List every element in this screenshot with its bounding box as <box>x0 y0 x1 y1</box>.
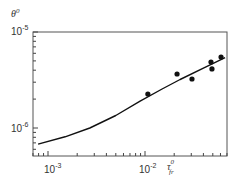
data-points <box>145 54 223 96</box>
x-axis-title-sup: 0 <box>171 158 175 166</box>
data-point <box>189 76 194 81</box>
data-point <box>209 66 214 71</box>
y-axis-title: θ0 <box>11 8 19 19</box>
x-tick-label-1e-2: 10-2 <box>139 163 156 175</box>
data-point <box>208 59 213 64</box>
y-tick-label-1e-6: 10-6 <box>11 122 28 134</box>
x-tick-exp: -2 <box>150 162 156 169</box>
x-axis-title: τ0fr <box>167 161 179 175</box>
y-tick-base: 10 <box>11 26 22 37</box>
y-axis-title-sup: 0 <box>16 7 20 15</box>
x-tick-base: 10 <box>44 164 55 175</box>
x-tick-label-1e-3: 10-3 <box>44 163 61 175</box>
y-tick-base: 10 <box>11 123 22 134</box>
y-tick-label-1e-5: 10-5 <box>11 25 28 37</box>
model-curve-line <box>38 58 225 144</box>
data-point <box>218 54 223 59</box>
x-tick-exp: -3 <box>55 162 61 169</box>
data-point <box>145 91 150 96</box>
chart-plot <box>0 0 239 189</box>
y-tick-exp: -6 <box>22 121 28 128</box>
model-curve <box>38 58 225 144</box>
y-tick-exp: -5 <box>22 24 28 31</box>
x-axis-title-sub: fr <box>169 168 174 176</box>
x-tick-base: 10 <box>139 164 150 175</box>
data-point <box>174 71 179 76</box>
